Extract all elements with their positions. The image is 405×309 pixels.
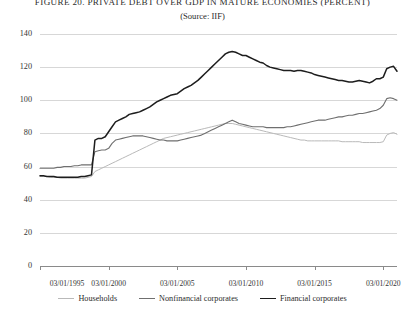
- x-tick: [383, 266, 384, 270]
- x-tick-label: 03/01/2000: [91, 279, 126, 288]
- x-tick: [109, 266, 110, 270]
- x-tick-label: 03/01/1995: [50, 279, 85, 288]
- legend-swatch-line-icon: [58, 298, 74, 299]
- series-lines: [40, 34, 397, 266]
- plot-area: [40, 34, 397, 266]
- figure-subtitle: (Source: IIF): [0, 11, 405, 21]
- x-tick: [40, 266, 41, 270]
- y-tick-label: 40: [2, 195, 32, 204]
- y-tick-label: 120: [2, 62, 32, 71]
- chart-legend: HouseholdsNonfinancial corporatesFinanci…: [0, 294, 405, 303]
- x-tick: [246, 266, 247, 270]
- legend-swatch-line-icon: [260, 298, 276, 299]
- legend-label: Nonfinancial corporates: [159, 294, 238, 303]
- x-tick: [177, 266, 178, 270]
- legend-item-nonfinancial-corporates[interactable]: Nonfinancial corporates: [139, 294, 238, 303]
- legend-item-households[interactable]: Households: [58, 294, 117, 303]
- y-tick-label: 20: [2, 228, 32, 237]
- x-tick-label: 03/01/2005: [160, 279, 195, 288]
- legend-item-financial-corporates[interactable]: Financial corporates: [260, 294, 347, 303]
- x-tick-label: 03/01/2020: [366, 279, 401, 288]
- y-tick-label: 60: [2, 162, 32, 171]
- y-tick-label: 80: [2, 128, 32, 137]
- x-tick: [315, 266, 316, 270]
- series-line-financial-corporates: [40, 51, 397, 177]
- x-tick-label: 03/01/2010: [229, 279, 264, 288]
- figure-title: FIGURE 20. PRIVATE DEBT OVER GDP IN MATU…: [0, 0, 405, 7]
- legend-swatch-line-icon: [139, 298, 155, 299]
- legend-label: Households: [78, 294, 117, 303]
- legend-label: Financial corporates: [280, 294, 347, 303]
- figure-container: FIGURE 20. PRIVATE DEBT OVER GDP IN MATU…: [0, 0, 405, 309]
- x-axis-line: [40, 266, 397, 267]
- y-tick-label: 100: [2, 95, 32, 104]
- y-tick-label: 140: [2, 29, 32, 38]
- x-tick-label: 03/01/2015: [297, 279, 332, 288]
- y-tick-label: 0: [2, 261, 32, 270]
